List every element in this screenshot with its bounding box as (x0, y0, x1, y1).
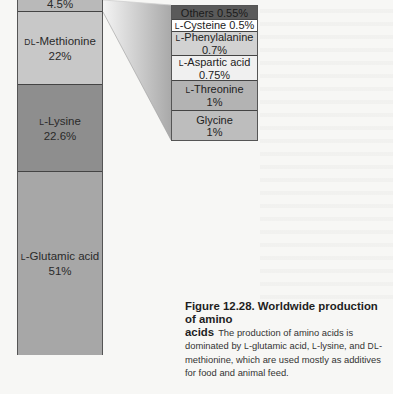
caption-title: Figure 12.28. Worldwide production of am… (185, 300, 390, 326)
segment-value: 51% (48, 264, 71, 278)
segment-label: DL-Methionine (24, 34, 96, 49)
segment-l-lysine: L-Lysine 22.6% (18, 85, 102, 172)
segment-dl-methionine: DL-Methionine 22% (18, 12, 102, 85)
breakout-row-l-phenylalanine: L-Phenylalanine 0.7% (172, 32, 257, 56)
segment-label: L-Lysine (39, 114, 81, 129)
breakout-row-others: Others 0.55% (172, 6, 257, 20)
segment-value: 22.6% (44, 129, 77, 143)
breakout-row-l-threonine: L-Threonine 1% (172, 81, 257, 111)
breakout-row-l-aspartic-acid: L-Aspartic acid 0.75% (172, 56, 257, 81)
breakout-bar: Others 0.55% L-Cysteine 0.5% L-Phenylala… (171, 5, 258, 141)
segment-label: L-Glutamic acid (21, 249, 100, 264)
breakout-row-glycine: Glycine 1% (172, 111, 257, 140)
segment-others-aggregate: 4.5% (18, 0, 102, 12)
segment-l-glutamic-acid: L-Glutamic acid 51% (18, 172, 102, 355)
figure-caption: Figure 12.28. Worldwide production of am… (185, 300, 390, 379)
caption-body: acidsThe production of amino acids is do… (185, 326, 390, 379)
segment-value: 22% (48, 49, 71, 63)
main-stacked-bar: 4.5% DL-Methionine 22% L-Lysine 22.6% L-… (17, 0, 103, 355)
segment-value: 4.5% (47, 0, 73, 11)
